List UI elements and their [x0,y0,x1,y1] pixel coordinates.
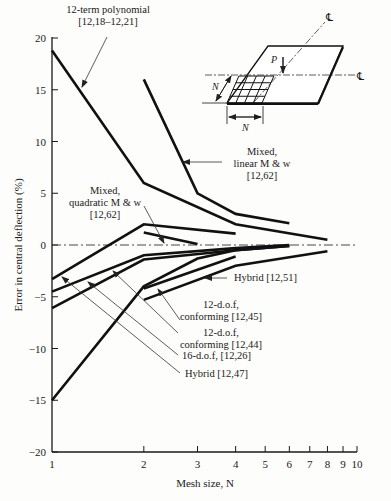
y-tick-label: 5 [41,187,47,199]
x-tick-label: 4 [233,458,239,470]
annotation-label: 16-d.o.f, [12,26] [182,350,251,361]
y-tick-label: 0 [41,239,47,251]
centerline-symbol: ℄ [356,70,364,82]
series-line [52,246,289,400]
y-tick-label: 15 [35,84,47,96]
x-tick-label: 6 [287,458,293,470]
annotation-label: Mixed,quadratic M & w[12,62] [69,185,141,220]
series-line [144,233,198,244]
chart: 20151050−5−10−15−2012345678910 12-term p… [0,0,391,501]
annotation-label: 12-term polynomial[12,18–12,21] [66,4,150,27]
x-tick-label: 3 [195,458,201,470]
x-tick-label: 1 [49,458,55,470]
x-tick-label: 7 [307,458,313,470]
series-line [52,245,289,292]
x-tick-label: 9 [340,458,346,470]
annotation-arrow [62,277,180,373]
annotation-label: 12-d.o.f,conforming [12,45] [180,299,262,322]
plate-outline [227,46,343,103]
centerline-symbol: ℄ [325,11,333,23]
y-axis-label: Error in central deflection (%) [12,178,25,311]
annotation-label: 12-d.o.f,conforming [12,44] [180,327,262,350]
y-tick-label: −15 [29,394,47,406]
annotation-arrow [82,37,107,87]
y-tick-label: 10 [35,136,47,148]
annotation-arrow [158,289,180,320]
y-tick-label: 20 [35,32,47,44]
load-label: P [270,54,277,65]
mesh-size-label: N [211,81,220,92]
y-tick-label: −5 [34,291,46,303]
x-tick-label: 5 [262,458,268,470]
x-tick-label: 10 [352,458,364,470]
annotation-label: Hybrid [12,51] [234,272,297,283]
y-tick-label: −20 [29,446,47,458]
x-axis-label: Mesh size, N [176,477,234,489]
y-tick-label: −10 [29,343,47,355]
annotation-label: Mixed,linear M & w[12,62] [234,146,291,181]
mesh-size-label: N [241,122,250,133]
x-tick-label: 8 [325,458,331,470]
annotation-label: Hybrid [12,47] [185,368,248,379]
x-tick-label: 2 [141,458,147,470]
plate-inset-diagram: ℄℄PNN [202,11,364,133]
